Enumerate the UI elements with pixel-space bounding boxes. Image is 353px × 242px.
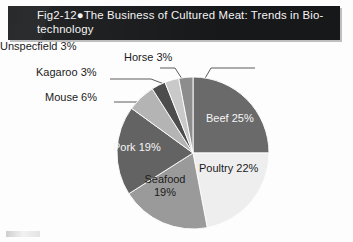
slice-label-pork: Pork 19%	[113, 141, 161, 154]
pie-chart: Beef 25% Poultry 22% Seafood 19% Pork 19…	[0, 40, 353, 242]
scan-artifact	[6, 231, 40, 237]
figure-title-bar: Fig2-12●The Business of Cultured Meat: T…	[8, 6, 340, 40]
slice-label-unspecfield: Unspecfield 3%	[0, 40, 76, 53]
slice-label-mouse: Mouse 6%	[45, 91, 97, 104]
slice-label-kagaroo: Kagaroo 3%	[36, 66, 97, 79]
slice-label-poultry: Poultry 22%	[199, 162, 258, 175]
slice-label-beef: Beef 25%	[206, 112, 254, 125]
figure-container: Fig2-12●The Business of Cultured Meat: T…	[0, 0, 353, 242]
slice-label-horse: Horse 3%	[124, 51, 172, 64]
page-title: Fig2-12●The Business of Cultured Meat: T…	[37, 9, 333, 37]
slice-label-seafood: Seafood 19%	[135, 173, 195, 199]
